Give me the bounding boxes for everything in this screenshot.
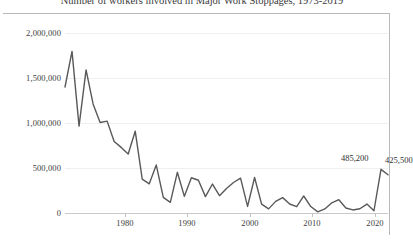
data-label-485200: 485,200 [341,154,369,163]
work-stoppages-line [65,51,388,211]
data-label-425500: 425,500 [385,156,413,165]
